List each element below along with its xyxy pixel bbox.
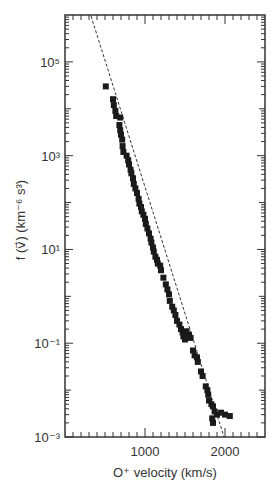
x-tick-label: 1000 <box>131 444 160 459</box>
y-tick-label: 10⁻³ <box>34 430 60 445</box>
y-tick-label: 10¹ <box>41 242 60 257</box>
data-point <box>163 281 169 287</box>
y-tick-label: 10³ <box>41 149 60 164</box>
data-point <box>134 190 140 196</box>
data-point <box>103 83 109 89</box>
data-point <box>120 143 126 149</box>
data-point <box>210 403 216 409</box>
data-point <box>200 373 206 379</box>
data-point <box>195 359 201 365</box>
data-point <box>142 216 148 222</box>
y-tick-label: 10⁵ <box>40 55 60 70</box>
data-point <box>158 267 164 273</box>
data-point <box>146 230 152 236</box>
y-axis-ticks <box>65 17 265 437</box>
data-point <box>130 175 136 181</box>
chart: 10002000 10⁻³10⁻¹10¹10³10⁵ O⁺ velocity (… <box>0 0 278 493</box>
data-point <box>167 298 173 304</box>
data-point <box>111 102 117 108</box>
data-point <box>112 108 118 114</box>
data-point <box>126 161 132 167</box>
y-axis-title: f (v⃗) (km⁻⁶ s³) <box>13 180 28 260</box>
data-point <box>117 115 123 121</box>
y-tick-labels: 10⁻³10⁻¹10¹10³10⁵ <box>34 55 60 445</box>
data-point <box>210 420 216 426</box>
data-point <box>188 335 194 341</box>
data-point <box>172 312 178 318</box>
data-point <box>110 96 116 102</box>
data-point <box>160 275 166 281</box>
data-point <box>166 291 172 297</box>
y-tick-label: 10⁻¹ <box>34 336 60 351</box>
plot-frame <box>65 15 265 437</box>
x-tick-label: 2000 <box>211 444 240 459</box>
data-point <box>227 413 233 419</box>
data-points <box>103 83 233 425</box>
x-tick-labels: 10002000 <box>131 444 240 459</box>
data-point <box>116 122 122 128</box>
x-axis-ticks <box>73 15 257 437</box>
data-point <box>205 392 211 398</box>
data-point <box>151 249 157 255</box>
x-axis-title: O⁺ velocity (km/s) <box>113 465 217 480</box>
data-point <box>119 137 125 143</box>
